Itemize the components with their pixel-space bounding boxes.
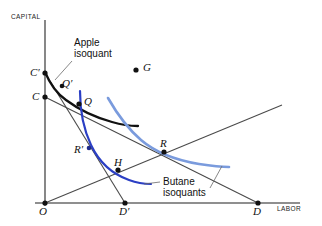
labor-axis-label: LABOR — [277, 206, 301, 213]
point-dot-R — [161, 149, 166, 154]
capital-axis-label: CAPITAL — [11, 14, 40, 21]
point-dot-G — [133, 67, 138, 72]
butane-isoquants-label-line1: Butane — [163, 176, 195, 188]
butane-isoquants-label-line2: isoquants — [163, 187, 206, 199]
point-label-C: C — [32, 91, 39, 102]
point-dot-H — [115, 167, 120, 172]
point-dot-R-prime — [87, 146, 92, 151]
point-label-C-prime: C′ — [30, 67, 40, 78]
point-label-Q: Q — [84, 96, 92, 107]
isoquant-diagram: CAPITAL LABOR Apple isoquant Butane isoq… — [0, 0, 322, 226]
point-label-D: D — [253, 206, 261, 217]
point-label-H: H — [114, 157, 122, 168]
point-label-R: R — [160, 138, 167, 149]
point-label-O: O — [39, 206, 47, 217]
point-dot-Q — [76, 101, 81, 106]
point-label-G: G — [143, 62, 151, 73]
point-label-D-prime: D′ — [119, 206, 129, 217]
point-label-R-prime: R′ — [74, 144, 83, 155]
diagram-canvas — [0, 0, 322, 226]
point-dot-C-prime — [42, 70, 47, 75]
apple-isoquant-label-line1: Apple — [74, 37, 100, 49]
apple-isoquant-label-line2: isoquant — [74, 48, 112, 60]
point-label-Q-prime: Q′ — [62, 78, 72, 89]
point-dot-C — [42, 94, 47, 99]
butane-isoquant-outer-curve — [108, 98, 229, 167]
